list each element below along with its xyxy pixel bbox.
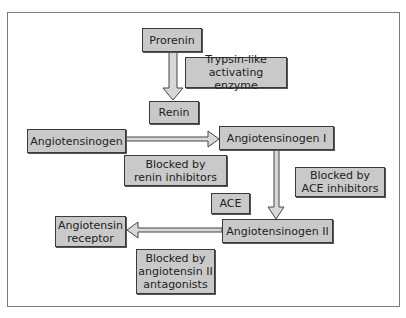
node-angiotensin-receptor: Angiotensin receptor bbox=[55, 216, 126, 247]
node-ace: ACE bbox=[211, 193, 250, 214]
node-blocked-renin-inhibitors: Blocked by renin inhibitors bbox=[124, 155, 227, 186]
node-prorenin: Prorenin bbox=[142, 28, 202, 52]
node-angiotensinogen: Angiotensinogen bbox=[27, 129, 126, 153]
node-blocked-ace-inhibitors: Blocked by ACE inhibitors bbox=[295, 167, 385, 197]
node-blocked-angiotensin-ii-antagonists: Blocked by angiotensin II antagonists bbox=[136, 249, 215, 294]
node-angiotensinogen-i: Angiotensinogen I bbox=[219, 126, 334, 150]
node-renin: Renin bbox=[149, 101, 199, 124]
node-angiotensinogen-ii: Angiotensinogen II bbox=[222, 219, 333, 243]
node-trypsin-like-enzyme: Trypsin-like activating enzyme bbox=[185, 57, 287, 88]
